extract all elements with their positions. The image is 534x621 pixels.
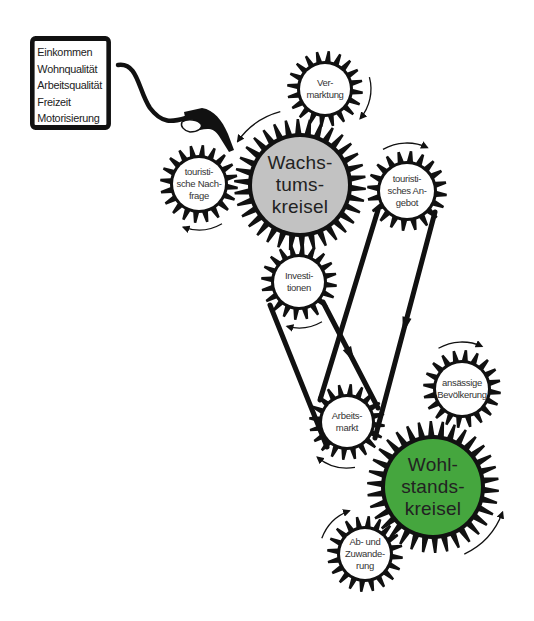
gear-label-line: touristi- [176, 166, 221, 178]
gear-label-line: gebot [387, 197, 426, 209]
gear-label-line: Investi- [285, 270, 313, 282]
gear-label-line: ansässige [437, 377, 487, 389]
gear-label-line: tionen [285, 282, 313, 294]
factor-housing-quality: Wohnqualität [37, 61, 106, 78]
gear-label-line: sche Nach- [176, 178, 221, 190]
rotation-arrow-icon [360, 77, 371, 119]
gear-label-line: Zuwande- [345, 548, 385, 560]
gear-label-ansaessige-bevoelkerung: ansässigeBevölkerung [437, 377, 487, 401]
factor-income: Einkommen [37, 44, 106, 61]
rotation-arrow-icon [439, 342, 482, 348]
gear-label-arbeitsmarkt: Arbeits-markt [332, 410, 362, 434]
rotation-arrow-icon [287, 322, 322, 328]
gear-label-line: kreisel [401, 498, 465, 520]
rotation-arrow-icon [183, 224, 222, 230]
gear-label-touristische-nachfrage: touristi-sche Nach-frage [176, 166, 221, 202]
factor-leisure: Freizeit [37, 94, 106, 111]
belt-direction-arrow-icon [402, 316, 411, 333]
gear-label-line: Wohl- [401, 454, 465, 476]
gear-label-investitionen: Investi-tionen [285, 270, 313, 294]
gear-label-line: marktung [306, 89, 343, 101]
gear-label-line: stands- [401, 476, 465, 498]
gear-label-line: Ab- und [345, 536, 385, 548]
gear-label-ab-und-zuwanderung: Ab- undZuwande-rung [345, 536, 385, 572]
gear-label-line: Arbeits- [332, 410, 362, 422]
gear-label-line: kreisel [268, 196, 333, 218]
factor-motorization: Motorisierung [37, 110, 106, 127]
belt-angebot-arbeitsmarkt-left [320, 210, 378, 400]
influence-factors-box: Einkommen Wohnqualität Arbeitsqualität F… [30, 36, 111, 130]
gear-label-wohlstandskreisel: Wohl-stands-kreisel [401, 454, 465, 520]
fuel-nozzle-icon [118, 65, 234, 152]
gear-label-wachstumskreisel: Wachs-tums-kreisel [268, 152, 333, 218]
gear-label-line: touristi- [387, 173, 426, 185]
rotation-arrow-icon [317, 457, 355, 468]
gear-label-touristisches-angebot: touristi-sches An-gebot [387, 173, 426, 209]
gear-label-vermarktung: Ver-marktung [306, 77, 343, 101]
gear-label-line: markt [332, 422, 362, 434]
gear-label-line: frage [176, 190, 221, 202]
factor-work-quality: Arbeitsqualität [37, 77, 106, 94]
gear-label-line: tums- [268, 174, 333, 196]
gear-label-line: Ver- [306, 77, 343, 89]
gear-label-line: Bevölkerung [437, 389, 487, 401]
rotation-arrow-icon [383, 143, 427, 149]
gear-label-line: sches An- [387, 185, 426, 197]
gear-label-line: rung [345, 560, 385, 572]
gear-label-line: Wachs- [268, 152, 333, 174]
